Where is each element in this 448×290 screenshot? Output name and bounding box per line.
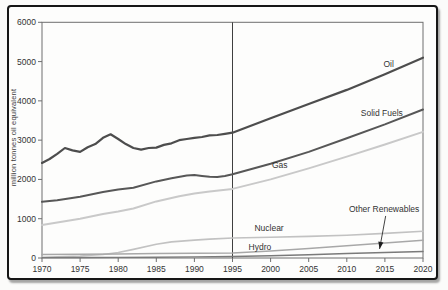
plot-canvas (0, 0, 448, 290)
x-tick-label-2005: 2005 (294, 264, 324, 274)
y-tick-label-4000: 4000 (6, 96, 36, 106)
annotation-arrowhead (378, 242, 383, 249)
series-label-gas: Gas (272, 160, 288, 170)
y-tick-label-5000: 5000 (6, 57, 36, 67)
y-tick-label-3000: 3000 (6, 135, 36, 145)
y-tick-label-0: 0 (6, 253, 36, 263)
x-tick-label-1985: 1985 (141, 264, 171, 274)
series-label-other-renewables: Other Renewables (349, 204, 419, 214)
x-tick-label-2010: 2010 (332, 264, 362, 274)
x-tick-label-1990: 1990 (179, 264, 209, 274)
y-tick-label-2000: 2000 (6, 174, 36, 184)
x-tick-label-1970: 1970 (27, 264, 57, 274)
x-tick-label-2020: 2020 (408, 264, 438, 274)
series-label-nuclear: Nuclear (254, 223, 283, 233)
x-tick-label-2015: 2015 (370, 264, 400, 274)
x-tick-label-1995: 1995 (218, 264, 248, 274)
x-tick-label-2000: 2000 (256, 264, 286, 274)
x-tick-label-1975: 1975 (65, 264, 95, 274)
x-tick-label-1980: 1980 (103, 264, 133, 274)
series-label-oil: Oil (384, 59, 394, 69)
y-tick-label-1000: 1000 (6, 214, 36, 224)
y-tick-label-6000: 6000 (6, 17, 36, 27)
series-label-hydro: Hydro (249, 242, 272, 252)
series-label-solid-fuels: Solid Fuels (361, 108, 403, 118)
energy-line-chart: million tonnes oil equivalent 0100020003… (0, 0, 448, 290)
